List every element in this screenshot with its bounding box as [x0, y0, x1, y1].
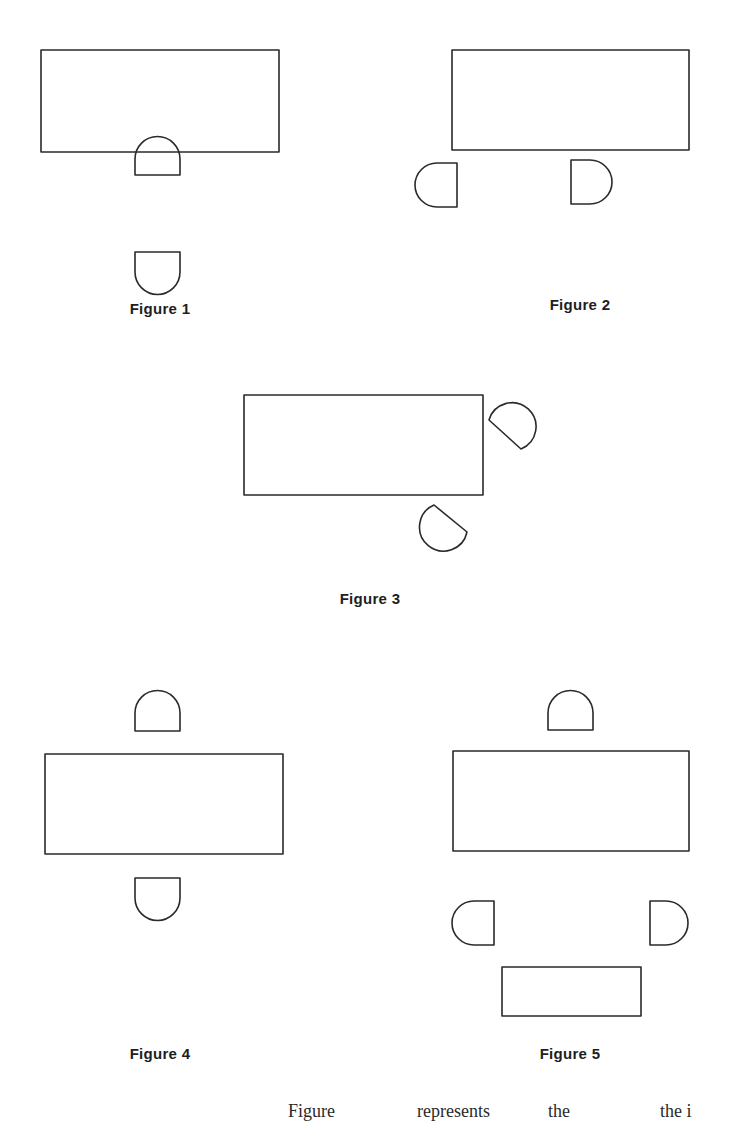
figure-5	[452, 691, 689, 1016]
figure-4-caption: Figure 4	[130, 1045, 191, 1062]
figure-4	[45, 691, 283, 921]
figure-2-caption: Figure 2	[550, 296, 611, 313]
chair-dome-up-icon	[548, 691, 593, 730]
clipped-body-text: Figure represents the the i	[0, 1101, 734, 1121]
chair-dome-up-icon	[135, 137, 180, 176]
figure-5-caption: Figure 5	[540, 1045, 601, 1062]
figure-1-caption: Figure 1	[130, 300, 191, 317]
chair-dome-right-icon	[571, 160, 612, 204]
chair-dome-down-icon	[135, 878, 180, 921]
chair-dome-up-icon	[135, 691, 180, 731]
text-fragment: the i	[660, 1101, 692, 1121]
chair-rotated-icon	[489, 403, 536, 449]
figure-3	[244, 395, 536, 551]
desk-rectangle	[45, 754, 283, 854]
text-fragment: the	[548, 1101, 570, 1121]
chair-rotated-icon	[420, 505, 467, 551]
chair-dome-down-icon	[135, 252, 180, 295]
figure-3-caption: Figure 3	[340, 590, 401, 607]
desk-rectangle	[453, 751, 689, 851]
chair-dome-right-icon	[650, 901, 688, 945]
side-table-rectangle	[502, 967, 641, 1016]
desk-rectangle	[244, 395, 483, 495]
figure-2	[415, 50, 689, 207]
chair-dome-left-icon	[452, 901, 494, 945]
figure-1	[41, 50, 279, 295]
chair-dome-left-icon	[415, 163, 457, 207]
desk-rectangle	[452, 50, 689, 150]
text-fragment: represents	[417, 1101, 490, 1121]
text-fragment: Figure	[288, 1101, 335, 1121]
